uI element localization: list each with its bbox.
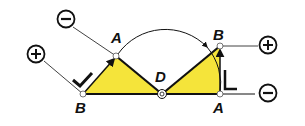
point-b-left bbox=[80, 91, 86, 97]
plus-circle-icon-left bbox=[28, 46, 45, 63]
minus-circle-icon-top bbox=[58, 11, 75, 28]
label-a-right: A bbox=[212, 99, 224, 116]
point-b-right bbox=[217, 43, 223, 49]
label-b-right: B bbox=[213, 26, 224, 43]
point-a-right bbox=[217, 91, 223, 97]
label-b-left: B bbox=[75, 99, 86, 116]
rotation-arc bbox=[118, 29, 207, 54]
label-d-center: D bbox=[155, 68, 166, 85]
leader-left-plus bbox=[44, 61, 83, 94]
rotation-diagram: B A D B A bbox=[0, 0, 305, 126]
point-d-center bbox=[158, 90, 167, 99]
leader-top-minus bbox=[73, 27, 116, 56]
right-angle-icon bbox=[225, 70, 237, 89]
label-a-top: A bbox=[110, 29, 122, 46]
plus-circle-icon-right bbox=[260, 37, 277, 54]
check-mark-icon bbox=[73, 73, 92, 86]
point-a-top bbox=[113, 53, 119, 59]
minus-circle-icon-right bbox=[260, 85, 277, 102]
